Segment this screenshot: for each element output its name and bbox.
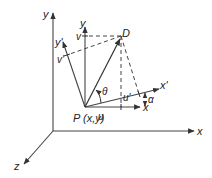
theta-arc (96, 90, 101, 103)
v-label: v (76, 31, 82, 42)
coordinate-rotation-diagram: y x z y x x' y' D u u' v v' θ (0, 0, 212, 178)
global-x-label: x (196, 125, 203, 137)
global-z-label: z (13, 160, 20, 172)
x-prime-label: x' (159, 79, 169, 91)
y-prime-label: y' (54, 36, 64, 48)
vector-d: D u u' v v' (57, 27, 140, 122)
global-z-axis (24, 131, 53, 164)
local-y-label: y (79, 17, 87, 29)
v-prime-label: v' (57, 54, 65, 65)
global-axes: y x z (13, 8, 203, 172)
point-p-label: P (x,y) (73, 112, 105, 124)
proj-d-to-u-prime (121, 36, 139, 94)
theta-label: θ (102, 86, 108, 97)
global-y-label: y (42, 8, 50, 20)
rotated-y-prime-axis (63, 42, 85, 107)
alpha-label: α (148, 94, 154, 105)
point-d-label: D (122, 27, 130, 39)
u-prime-label: u' (123, 92, 132, 103)
